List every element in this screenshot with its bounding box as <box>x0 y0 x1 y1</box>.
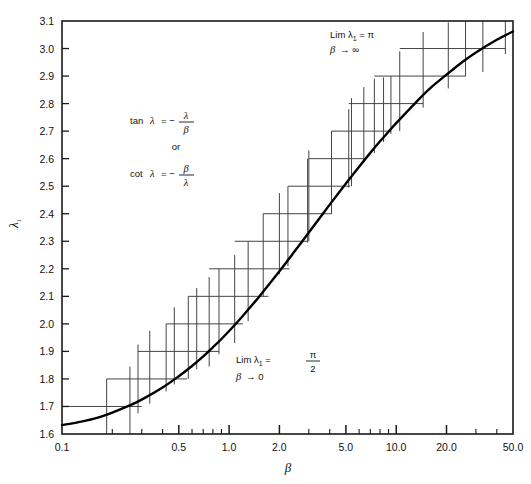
x-tick-label: 20.0 <box>436 441 457 453</box>
y-tick-label: 2.4 <box>39 208 54 220</box>
limit-lower-equals: = <box>265 354 271 365</box>
y-tick-label: 1.6 <box>39 428 54 440</box>
limit-lower-condition-var: β <box>235 371 242 382</box>
equation-line2-numerator: β <box>182 163 189 174</box>
x-axis-title: β <box>284 460 292 475</box>
limit-upper-condition-var: β <box>329 44 336 55</box>
lambda1-vs-beta-chart: 0.10.51.02.05.010.020.050.0 1.61.71.81.9… <box>0 0 531 484</box>
equation-line1-prefix: tan <box>130 115 143 126</box>
y-tick-label: 2.8 <box>39 98 54 110</box>
limit-upper-equals: = π <box>359 29 374 40</box>
limit-lower-text: Lim λ <box>236 354 259 365</box>
y-tick-label: 2.9 <box>39 70 54 82</box>
y-tick-label: 1.7 <box>39 400 54 412</box>
equation-line2-eq: = − <box>161 168 175 179</box>
y-tick-label: 3.1 <box>39 15 54 27</box>
x-tick-label: 0.5 <box>171 441 186 453</box>
x-tick-label: 5.0 <box>339 441 354 453</box>
y-tick-label: 1.9 <box>39 345 54 357</box>
limit-upper-condition-arrow: → ∞ <box>340 44 359 55</box>
y-tick-label: 2.5 <box>39 180 54 192</box>
x-tick-label: 50.0 <box>503 441 524 453</box>
x-tick-label: 10.0 <box>386 441 407 453</box>
equation-line1-eq: = − <box>161 115 175 126</box>
y-axis-title-subscript: 1 <box>15 219 23 223</box>
x-tick-label: 2.0 <box>272 441 287 453</box>
limit-lower-condition-arrow: → 0 <box>246 371 263 382</box>
figure-container: 0.10.51.02.05.010.020.050.0 1.61.71.81.9… <box>0 0 531 484</box>
y-tick-label: 1.8 <box>39 373 54 385</box>
chart-background <box>0 0 531 484</box>
y-tick-label: 2.2 <box>39 263 54 275</box>
x-tick-label: 0.1 <box>55 441 70 453</box>
y-tick-label: 2.7 <box>39 125 54 137</box>
equation-line2-var: λ <box>149 168 155 179</box>
equation-line2-denominator: λ <box>183 177 189 188</box>
y-tick-label: 2.0 <box>39 318 54 330</box>
equation-line2-prefix: cot <box>130 168 143 179</box>
y-tick-label: 2.3 <box>39 235 54 247</box>
y-tick-label: 2.6 <box>39 153 54 165</box>
limit-lower-frac-denominator: 2 <box>310 363 315 374</box>
equation-connector: or <box>172 141 180 152</box>
x-tick-label: 1.0 <box>222 441 237 453</box>
equation-line1-denominator: β <box>182 124 189 135</box>
y-tick-label: 3.0 <box>39 43 54 55</box>
equation-line1-var: λ <box>149 115 155 126</box>
y-tick-label: 2.1 <box>39 290 54 302</box>
limit-lower-frac-numerator: π <box>310 349 317 360</box>
equation-line1-numerator: λ <box>183 110 189 121</box>
limit-upper-text: Lim λ <box>330 29 353 40</box>
